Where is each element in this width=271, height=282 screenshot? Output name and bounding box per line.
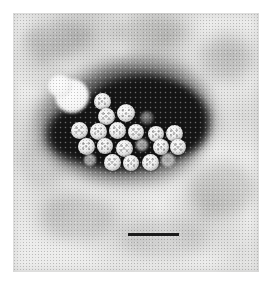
figure-root <box>0 0 271 282</box>
electron-micrograph-image <box>13 13 259 272</box>
scale-bar <box>128 233 179 236</box>
